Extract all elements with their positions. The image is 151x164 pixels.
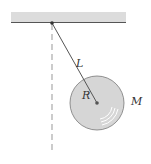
ceiling [11,12,126,22]
label-mass: M [130,95,143,108]
disk-center [95,101,99,105]
label-length: L [75,57,83,70]
label-radius: R [81,89,90,102]
pivot-point [50,21,54,25]
pendulum-diagram: L R M [0,0,151,164]
